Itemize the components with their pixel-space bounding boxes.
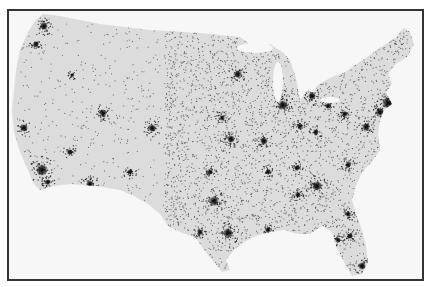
city-cluster-atlanta	[312, 181, 322, 191]
city-cluster-omaha	[219, 115, 225, 121]
city-cluster-charlotte	[345, 162, 351, 168]
city-cluster-kansas-city	[227, 135, 235, 143]
city-cluster-jacksonville	[345, 211, 351, 217]
city-cluster-orlando	[347, 233, 353, 239]
city-cluster-seattle	[40, 22, 48, 30]
city-cluster-st-louis	[260, 137, 268, 145]
city-cluster-tampa	[335, 237, 341, 243]
city-cluster-cincinnati	[313, 129, 319, 135]
city-cluster-detroit	[308, 92, 316, 100]
lake-huron	[306, 68, 318, 92]
city-cluster-boston	[396, 74, 404, 82]
city-cluster-boise	[70, 73, 74, 77]
city-cluster-los-angeles	[36, 164, 48, 176]
city-cluster-minneapolis	[234, 70, 242, 78]
city-cluster-salt-lake-city	[99, 109, 107, 117]
city-cluster-phoenix	[86, 180, 94, 188]
city-cluster-cleveland	[325, 103, 331, 109]
city-cluster-washington-dc	[362, 123, 370, 131]
contiguous-us-landmass	[12, 14, 414, 276]
city-cluster-memphis	[265, 169, 271, 175]
city-cluster-dallas	[209, 196, 219, 206]
city-cluster-pittsburgh	[342, 111, 348, 117]
city-cluster-houston	[223, 228, 233, 238]
city-cluster-nashville	[294, 165, 300, 171]
city-cluster-miami	[358, 262, 366, 270]
lake-erie	[320, 97, 340, 103]
city-cluster-new-york	[382, 97, 394, 109]
city-cluster-san-antonio	[197, 229, 203, 235]
lake-superior	[237, 43, 273, 53]
city-cluster-new-orleans	[265, 227, 271, 233]
lake-michigan	[273, 62, 283, 102]
city-cluster-san-diego	[45, 179, 51, 185]
city-cluster-birmingham	[295, 192, 301, 198]
city-cluster-portland	[33, 41, 39, 47]
city-cluster-indianapolis	[297, 123, 303, 129]
us-population-dot-map	[0, 0, 430, 287]
city-cluster-san-francisco-bay	[20, 124, 28, 132]
city-cluster-el-paso	[126, 202, 130, 206]
city-cluster-albuquerque	[127, 169, 133, 175]
city-cluster-las-vegas	[67, 149, 73, 155]
city-cluster-denver	[148, 124, 156, 132]
city-cluster-oklahoma-city	[207, 169, 213, 175]
city-cluster-philadelphia	[376, 108, 384, 116]
city-cluster-chicago	[278, 100, 288, 110]
